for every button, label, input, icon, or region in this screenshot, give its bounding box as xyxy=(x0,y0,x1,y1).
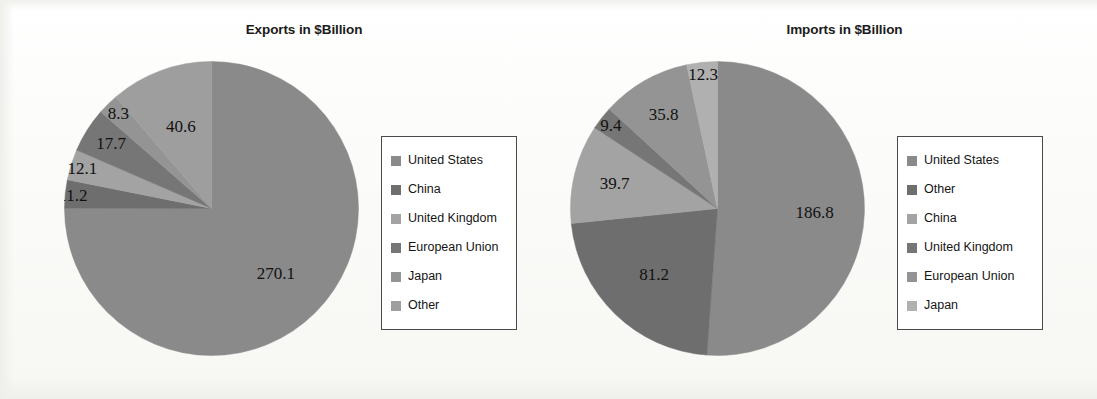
legend-item[interactable]: China xyxy=(391,175,506,204)
legend-item[interactable]: European Union xyxy=(391,233,506,262)
pie-slice-label: 9.4 xyxy=(600,116,622,135)
chart-title-imports: Imports in $Billion xyxy=(548,22,1097,37)
pie-svg-exports: 270.111.212.117.78.340.6 xyxy=(64,61,359,356)
pie-slice-label: 35.8 xyxy=(649,105,679,124)
legend-item-label: Other xyxy=(924,183,955,196)
legend-imports: United States Other China United Kingdom… xyxy=(897,136,1043,330)
legend-item-label: China xyxy=(408,183,441,196)
pie-slice-label: 12.3 xyxy=(688,65,718,84)
legend-item[interactable]: United Kingdom xyxy=(907,233,1032,262)
pie-slice-label: 11.2 xyxy=(64,186,87,205)
pie-chart-imports: 186.881.239.79.435.812.3 xyxy=(570,61,865,356)
pie-slice-label: 39.7 xyxy=(600,174,630,193)
legend-swatch-icon xyxy=(391,301,401,311)
legend-item[interactable]: European Union xyxy=(907,262,1032,291)
pie-slice-label: 12.1 xyxy=(68,159,98,178)
legend-swatch-icon xyxy=(907,243,917,253)
legend-item[interactable]: United Kingdom xyxy=(391,204,506,233)
legend-swatch-icon xyxy=(391,243,401,253)
pie-slice-label: 81.2 xyxy=(639,265,669,284)
pie-slice-label: 17.7 xyxy=(96,134,126,153)
pie-slice-label: 8.3 xyxy=(108,104,129,123)
pie-svg-imports: 186.881.239.79.435.812.3 xyxy=(570,61,865,356)
legend-item-label: United States xyxy=(408,154,483,167)
legend-item-label: Japan xyxy=(924,299,958,312)
legend-item-label: China xyxy=(924,212,957,225)
legend-exports: United States China United Kingdom Europ… xyxy=(381,136,517,330)
legend-swatch-icon xyxy=(907,272,917,282)
legend-item-label: European Union xyxy=(408,241,498,254)
legend-swatch-icon xyxy=(907,214,917,224)
pie-chart-exports: 270.111.212.117.78.340.6 xyxy=(64,61,359,356)
legend-item[interactable]: United States xyxy=(391,146,506,175)
legend-swatch-icon xyxy=(907,301,917,311)
pie-slice-label: 40.6 xyxy=(166,117,196,136)
legend-swatch-icon xyxy=(907,156,917,166)
legend-item-label: United Kingdom xyxy=(408,212,497,225)
chart-panel-exports: Exports in $Billion 270.111.212.117.78.3… xyxy=(0,0,548,399)
legend-item[interactable]: Other xyxy=(391,291,506,320)
legend-swatch-icon xyxy=(391,156,401,166)
legend-item[interactable]: Other xyxy=(907,175,1032,204)
legend-item-label: United States xyxy=(924,154,999,167)
legend-item[interactable]: United States xyxy=(907,146,1032,175)
legend-swatch-icon xyxy=(907,185,917,195)
legend-item[interactable]: Japan xyxy=(391,262,506,291)
legend-swatch-icon xyxy=(391,185,401,195)
legend-item-label: European Union xyxy=(924,270,1014,283)
legend-item[interactable]: China xyxy=(907,204,1032,233)
pie-slice[interactable] xyxy=(707,62,865,356)
legend-item-label: United Kingdom xyxy=(924,241,1013,254)
legend-swatch-icon xyxy=(391,272,401,282)
pie-slice-label: 186.8 xyxy=(795,203,833,222)
legend-swatch-icon xyxy=(391,214,401,224)
pie-slice-label: 270.1 xyxy=(257,264,295,283)
legend-item-label: Other xyxy=(408,299,439,312)
chart-title-exports: Exports in $Billion xyxy=(0,22,578,37)
legend-item[interactable]: Japan xyxy=(907,291,1032,320)
legend-item-label: Japan xyxy=(408,270,442,283)
